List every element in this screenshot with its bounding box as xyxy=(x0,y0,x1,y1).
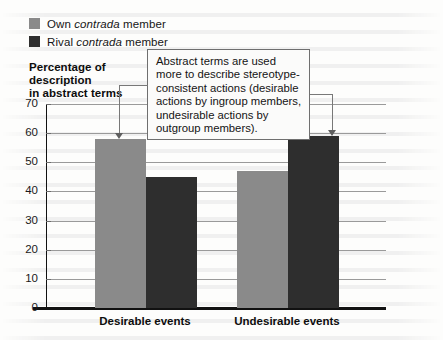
y-tick-label-40: 40 xyxy=(10,184,38,196)
y-axis-title: Percentage of description in abstract te… xyxy=(29,61,123,101)
chart-figure: Own contrada member Rival contrada membe… xyxy=(0,0,443,340)
callout-connector-left-vertical xyxy=(119,85,120,133)
y-axis-title-line-3: in abstract terms xyxy=(29,87,123,100)
annotation-callout: Abstract terms are used more to describe… xyxy=(147,49,310,140)
tick-20 xyxy=(46,250,51,251)
tick-50 xyxy=(46,162,51,163)
legend-swatch-rival xyxy=(29,36,40,47)
tick-40 xyxy=(46,191,51,192)
legend-item-rival: Rival contrada member xyxy=(29,34,168,49)
bar-desirable-events-own xyxy=(95,139,146,308)
tick-70 xyxy=(46,104,51,105)
y-tick-label-70: 70 xyxy=(10,97,38,109)
callout-connector-right-horizontal xyxy=(310,94,333,95)
chart-legend: Own contrada member Rival contrada membe… xyxy=(29,16,168,52)
callout-arrowhead-right xyxy=(328,130,336,136)
y-axis-title-line-2: description xyxy=(29,74,123,87)
legend-item-own: Own contrada member xyxy=(29,16,168,31)
callout-arrowhead-left xyxy=(115,133,123,139)
bar-undesirable-events-rival xyxy=(288,136,339,308)
y-axis-title-line-1: Percentage of xyxy=(29,61,123,74)
bar-desirable-events-rival xyxy=(146,177,197,308)
legend-label-rival: Rival contrada member xyxy=(47,36,168,48)
callout-connector-left-horizontal xyxy=(119,85,148,86)
legend-swatch-own xyxy=(29,18,40,29)
tick-60 xyxy=(46,133,51,134)
y-tick-label-60: 60 xyxy=(10,126,38,138)
callout-connector-right-vertical xyxy=(332,94,333,130)
tick-10 xyxy=(46,279,51,280)
y-tick-label-30: 30 xyxy=(10,214,38,226)
y-tick-label-50: 50 xyxy=(10,155,38,167)
y-tick-label-10: 10 xyxy=(10,272,38,284)
bar-undesirable-events-own xyxy=(237,171,288,308)
x-axis-label-undesirable: Undesirable events xyxy=(212,315,362,327)
y-tick-label-20: 20 xyxy=(10,243,38,255)
legend-label-own: Own contrada member xyxy=(47,18,166,30)
tick-30 xyxy=(46,221,51,222)
y-tick-label-0: 0 xyxy=(10,301,38,313)
x-axis-label-desirable: Desirable events xyxy=(70,315,220,327)
